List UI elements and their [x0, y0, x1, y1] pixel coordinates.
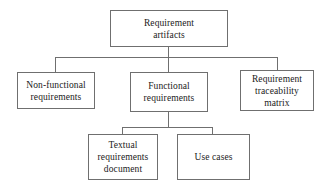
node-requirement-traceability-matrix-label: Requirement traceability matrix [243, 73, 311, 109]
connector-to-use-cases [212, 127, 213, 134]
node-non-functional-requirements-label: Non-functional requirements [20, 79, 92, 103]
node-textual-requirements-document-label: Textual requirements document [91, 139, 155, 175]
node-requirement-traceability-matrix: Requirement traceability matrix [240, 70, 314, 111]
node-non-functional-requirements: Non-functional requirements [17, 72, 95, 109]
node-use-cases: Use cases [177, 134, 250, 180]
node-functional-requirements-label: Functional requirements [133, 80, 205, 104]
node-requirement-artifacts: Requirement artifacts [110, 10, 228, 47]
connector-to-traceability [277, 57, 278, 70]
node-functional-requirements: Functional requirements [130, 72, 208, 112]
connector-to-textual-requirements [122, 127, 123, 134]
node-requirement-artifacts-label: Requirement artifacts [113, 17, 225, 41]
connector-functional-stem [168, 112, 169, 128]
node-use-cases-label: Use cases [180, 151, 247, 163]
connector-level1-bar [55, 57, 278, 58]
node-textual-requirements-document: Textual requirements document [88, 134, 158, 180]
connector-to-functional [168, 57, 169, 72]
connector-level2-bar [122, 127, 213, 128]
requirement-artifacts-diagram: Requirement artifacts Non-functional req… [0, 0, 332, 191]
connector-to-non-functional [55, 57, 56, 72]
